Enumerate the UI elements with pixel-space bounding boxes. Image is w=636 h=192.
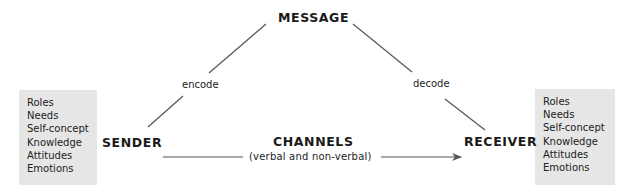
receiver-attribute-needs: Needs <box>543 108 615 121</box>
decode-line-lower <box>445 99 485 130</box>
encode-line-upper <box>209 24 266 73</box>
sender-attributes-box: Roles Needs Self-concept Knowledge Attit… <box>19 90 97 185</box>
message-node: MESSAGE <box>278 12 349 25</box>
receiver-attribute-self-concept: Self-concept <box>543 121 615 134</box>
decode-label: decode <box>413 79 450 89</box>
receiver-attributes-box: Roles Needs Self-concept Knowledge Attit… <box>535 89 615 185</box>
sender-attributes-list: Roles Needs Self-concept Knowledge Attit… <box>27 96 97 175</box>
channels-node: CHANNELS <box>273 136 354 149</box>
channels-subtitle: (verbal and non-verbal) <box>249 152 372 162</box>
encode-label: encode <box>182 80 219 90</box>
receiver-attribute-roles: Roles <box>543 95 615 108</box>
sender-attribute-knowledge: Knowledge <box>27 136 97 149</box>
sender-attribute-attitudes: Attitudes <box>27 149 97 162</box>
sender-attribute-emotions: Emotions <box>27 162 97 175</box>
sender-node: SENDER <box>102 137 162 150</box>
decode-line-upper <box>353 24 412 72</box>
receiver-attributes-list: Roles Needs Self-concept Knowledge Attit… <box>543 95 615 174</box>
sender-attribute-roles: Roles <box>27 96 97 109</box>
encode-line-lower <box>148 96 183 127</box>
receiver-attribute-emotions: Emotions <box>543 161 615 174</box>
sender-attribute-needs: Needs <box>27 109 97 122</box>
receiver-node: RECEIVER <box>464 136 537 149</box>
sender-attribute-self-concept: Self-concept <box>27 122 97 135</box>
receiver-attribute-attitudes: Attitudes <box>543 148 615 161</box>
receiver-attribute-knowledge: Knowledge <box>543 135 615 148</box>
